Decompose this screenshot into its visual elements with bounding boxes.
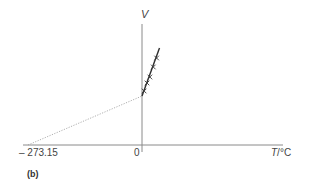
panel-label: (b) [27,169,39,179]
chart-canvas [0,0,310,187]
t-axis-label: T/°C [271,148,291,158]
measured-data-line [142,48,160,96]
tick-label-zero: 0 [134,148,140,158]
extrapolation-dotted-line [28,96,142,145]
tick-label-absolute-zero: – 273.15 [19,148,58,158]
t-axis-unit: /°C [277,147,291,158]
v-axis-label: V [141,9,148,19]
